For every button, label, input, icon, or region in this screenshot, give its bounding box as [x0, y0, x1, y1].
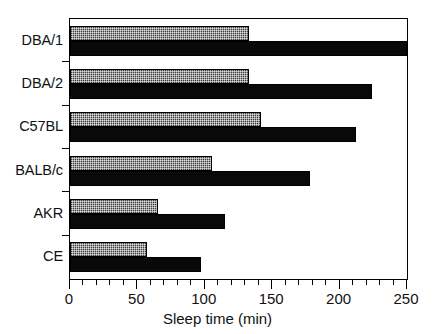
y-axis-label-4: AKR [0, 206, 63, 221]
x-axis-tick-240 [393, 280, 394, 285]
x-axis-tick-140 [258, 280, 259, 285]
bar-akr-lower [70, 214, 225, 229]
y-axis-category-labels: DBA/1 DBA/2 C57BL BALB/c AKR CE [0, 18, 63, 280]
x-axis-tick-label-0: 0 [65, 290, 73, 307]
bar-dba-1-upper [70, 26, 249, 41]
x-axis-tick-110 [217, 280, 218, 285]
x-axis-tick-40 [123, 280, 124, 285]
bar-balb-c-lower [70, 171, 310, 186]
x-axis-tick-label-50: 50 [128, 290, 145, 307]
x-axis-title: Sleep time (min) [0, 310, 435, 328]
x-axis-tick-60 [150, 280, 151, 285]
x-axis-tick-210 [352, 280, 353, 285]
x-axis-tick-30 [109, 280, 110, 285]
x-axis-tick-180 [312, 280, 313, 285]
y-axis-tick-5 [62, 235, 70, 236]
y-axis-label-3: BALB/c [0, 163, 63, 178]
x-axis-tick-70 [163, 280, 164, 285]
x-axis-tick-200 [339, 280, 340, 289]
x-axis-tick-10 [82, 280, 83, 285]
x-axis-tick-130 [244, 280, 245, 285]
x-axis-tick-120 [231, 280, 232, 285]
bar-ce-lower [70, 257, 201, 272]
x-axis-tick-label-100: 100 [191, 290, 216, 307]
x-axis-tick-0 [69, 280, 70, 289]
x-axis-tick-label-200: 200 [326, 290, 351, 307]
bar-chart-figure: DBA/1 DBA/2 C57BL BALB/c AKR CE 05010015… [0, 0, 435, 334]
y-axis-label-2: C57BL [0, 119, 63, 134]
x-axis-tick-20 [96, 280, 97, 285]
x-axis-tick-250 [406, 280, 407, 289]
bar-c57bl-upper [70, 112, 261, 127]
bar-dba-2-lower [70, 84, 372, 99]
x-axis-tick-190 [325, 280, 326, 285]
x-axis-tick-80 [177, 280, 178, 285]
x-axis-tick-170 [298, 280, 299, 285]
y-axis-tick-3 [62, 148, 70, 149]
x-axis-tick-label-250: 250 [393, 290, 418, 307]
x-axis-tick-label-150: 150 [259, 290, 284, 307]
bar-dba-1-lower [70, 41, 407, 56]
x-axis-tick-labels: 050100150200250 [0, 290, 435, 310]
x-axis-tick-160 [285, 280, 286, 285]
bar-c57bl-lower [70, 127, 356, 142]
y-axis-tick-1 [62, 61, 70, 62]
y-axis-label-0: DBA/1 [0, 33, 63, 48]
y-axis-tick-2 [62, 105, 70, 106]
x-axis-tick-50 [136, 280, 137, 289]
y-axis-label-5: CE [0, 249, 63, 264]
bar-series-group [70, 19, 407, 279]
bar-balb-c-upper [70, 156, 212, 171]
x-axis-tick-150 [271, 280, 272, 289]
bar-dba-2-upper [70, 69, 249, 84]
bar-ce-upper [70, 242, 147, 257]
x-axis-tick-100 [204, 280, 205, 289]
bar-akr-upper [70, 199, 158, 214]
x-axis-tick-90 [190, 280, 191, 285]
x-axis-tick-220 [366, 280, 367, 285]
y-axis-tick-4 [62, 191, 70, 192]
y-axis-label-1: DBA/2 [0, 76, 63, 91]
x-axis-tick-230 [379, 280, 380, 285]
